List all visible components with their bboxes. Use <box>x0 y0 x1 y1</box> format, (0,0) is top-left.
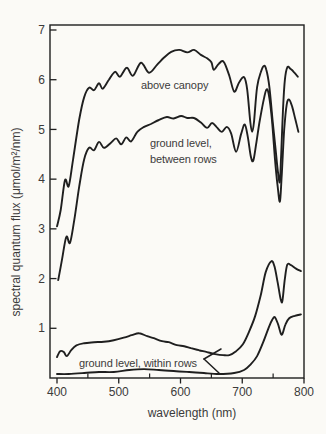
curve-2-ground-level-within-rows-upper-curve <box>57 261 301 357</box>
curve-label-between-rows-line1: ground level, <box>150 136 217 152</box>
curve-label-between-rows-line2: between rows <box>150 152 217 168</box>
y-tick-label: 3 <box>38 222 45 236</box>
curve-label-between-rows: ground level, between rows <box>150 136 217 167</box>
y-tick-label: 4 <box>38 172 45 186</box>
figure-page: 1234567400500600700800 spectral quantum … <box>0 0 326 434</box>
x-axis-title: wavelength (nm) <box>60 406 324 420</box>
x-tick-label: 400 <box>47 385 67 399</box>
y-tick-label: 1 <box>38 321 45 335</box>
curve-label-above-canopy: above canopy <box>141 79 208 91</box>
curve-1-ground-level-between-rows <box>58 89 298 280</box>
y-tick-label: 2 <box>38 272 45 286</box>
x-tick-label: 600 <box>170 385 190 399</box>
plot-frame <box>50 25 304 378</box>
label-pointer <box>204 359 219 373</box>
x-tick-label: 700 <box>232 385 252 399</box>
x-tick-label: 800 <box>294 385 314 399</box>
x-tick-label: 500 <box>109 385 129 399</box>
y-tick-label: 5 <box>38 123 45 137</box>
y-tick-label: 6 <box>38 73 45 87</box>
y-axis-title: spectral quantum flux (μmol/m²/nm) <box>9 128 23 317</box>
y-tick-label: 7 <box>38 23 45 37</box>
curve-label-within-rows: ground level, within rows <box>79 357 197 369</box>
